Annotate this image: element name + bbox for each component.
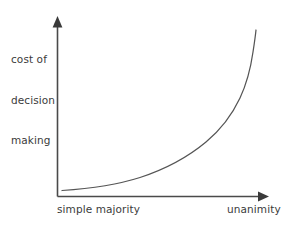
cost-curve <box>62 30 256 191</box>
y-axis-label-line-1: cost of <box>11 53 55 67</box>
x-axis-label-right: unanimity <box>227 203 281 217</box>
y-axis-label-line-2: decision <box>11 94 55 108</box>
y-axis-label-line-3: making <box>11 134 55 148</box>
x-axis-label-left: simple majority <box>57 203 140 217</box>
x-axis-arrow-icon <box>258 192 269 202</box>
chart-figure: cost of decision making simple majority … <box>0 0 293 231</box>
y-axis-label: cost of decision making <box>11 26 55 175</box>
